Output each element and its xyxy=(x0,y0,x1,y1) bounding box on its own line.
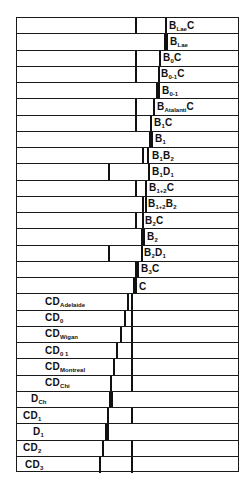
breakpoint-line xyxy=(113,359,115,374)
row-label: CDMontreal xyxy=(45,361,85,373)
diagram-row: B0-1C xyxy=(17,67,238,83)
breakpoint-line xyxy=(124,311,126,326)
breakpoint-line xyxy=(150,116,152,131)
breakpoint-line xyxy=(131,311,133,326)
centromere-marker xyxy=(156,83,160,98)
breakpoint-line xyxy=(99,457,101,473)
row-label: DCh xyxy=(31,393,47,405)
row-label: BLaeC xyxy=(169,20,194,32)
row-label: CD1 xyxy=(23,410,41,422)
breakpoint-line xyxy=(131,343,133,358)
row-label: CD0 1 xyxy=(45,345,68,357)
breakpoint-line xyxy=(147,148,149,163)
breakpoint-line xyxy=(137,262,139,277)
diagram-row: CD1 xyxy=(17,408,238,424)
row-label: CD2 xyxy=(23,442,41,454)
breakpoint-line xyxy=(120,327,122,342)
row-label: B1+2C xyxy=(149,182,174,194)
breakpoint-line xyxy=(107,408,109,423)
row-label: B0-1C xyxy=(161,68,185,80)
diagram-row: CD0 1 xyxy=(17,343,238,359)
chromosome-diagram-frame: BLaeCBLaeB0CB0-1CB0-1BAtalantiCB1CB1B1B2… xyxy=(16,17,239,472)
breakpoint-line xyxy=(131,441,133,456)
diagram-row: BLaeC xyxy=(17,18,238,34)
row-label: CDAdelaide xyxy=(45,296,85,308)
centromere-marker xyxy=(164,34,168,49)
breakpoint-line xyxy=(108,164,110,179)
row-label: CD3 xyxy=(25,459,43,471)
diagram-row: CD3 xyxy=(17,457,238,473)
row-label: B2C xyxy=(145,215,163,227)
breakpoint-line xyxy=(153,99,155,114)
row-label: B1 xyxy=(155,133,166,145)
diagram-row: D1 xyxy=(17,424,238,440)
diagram-row: CDMontreal xyxy=(17,359,238,375)
row-label: CDChi xyxy=(45,377,70,389)
breakpoint-line xyxy=(142,197,144,212)
breakpoint-line xyxy=(131,294,133,309)
breakpoint-line xyxy=(131,408,133,423)
breakpoint-line xyxy=(142,148,144,163)
breakpoint-line xyxy=(135,213,137,228)
row-label: B1B2 xyxy=(152,150,174,162)
diagram-row: C xyxy=(17,278,238,294)
diagram-row: BAtalantiC xyxy=(17,99,238,115)
breakpoint-line xyxy=(110,376,112,391)
row-label: BLae xyxy=(170,36,188,48)
diagram-row: B1B2 xyxy=(17,148,238,164)
breakpoint-line xyxy=(135,18,137,33)
breakpoint-line xyxy=(142,213,144,228)
breakpoint-line xyxy=(131,457,133,473)
breakpoint-line xyxy=(135,67,137,82)
breakpoint-line xyxy=(135,181,137,196)
row-label: B1+2B2 xyxy=(148,198,177,210)
diagram-row: BLae xyxy=(17,34,238,50)
row-label: B0C xyxy=(163,52,181,64)
row-label: B1C xyxy=(154,117,172,129)
breakpoint-line xyxy=(135,51,137,66)
breakpoint-line xyxy=(131,376,133,391)
breakpoint-line xyxy=(158,67,160,82)
diagram-row: DCh xyxy=(17,392,238,408)
breakpoint-line xyxy=(145,181,147,196)
breakpoint-line xyxy=(135,99,137,114)
centromere-marker xyxy=(109,392,113,407)
row-label: C xyxy=(139,280,147,291)
diagram-row: B2 xyxy=(17,229,238,245)
row-label: D1 xyxy=(33,426,44,438)
diagram-row: CDAdelaide xyxy=(17,294,238,310)
diagram-row: CDWigan xyxy=(17,327,238,343)
row-label: B2D1 xyxy=(144,247,166,259)
diagram-row: B1D1 xyxy=(17,164,238,180)
row-label: B2 xyxy=(147,231,158,243)
diagram-row: CD2 xyxy=(17,441,238,457)
breakpoint-line xyxy=(116,343,118,358)
centromere-marker xyxy=(141,229,145,244)
breakpoint-line xyxy=(165,18,167,33)
diagram-row: B0C xyxy=(17,51,238,67)
breakpoint-line xyxy=(131,327,133,342)
row-label: BAtalantiC xyxy=(157,101,194,113)
row-label: CDWigan xyxy=(45,328,78,340)
row-label: CD0 xyxy=(45,312,63,324)
diagram-row: B1+2B2 xyxy=(17,197,238,213)
diagram-row: B3C xyxy=(17,262,238,278)
row-label: B1D1 xyxy=(152,166,174,178)
row-label: B0-1 xyxy=(162,85,178,97)
diagram-row: B1+2C xyxy=(17,181,238,197)
diagram-row: CD0 xyxy=(17,311,238,327)
breakpoint-line xyxy=(141,246,143,261)
breakpoint-line xyxy=(135,116,137,131)
breakpoint-line xyxy=(148,164,150,179)
breakpoint-line xyxy=(102,441,104,456)
breakpoint-line xyxy=(145,197,147,212)
breakpoint-line xyxy=(127,294,129,309)
centromere-marker xyxy=(105,424,109,439)
centromere-marker xyxy=(149,132,153,147)
diagram-row: CDChi xyxy=(17,376,238,392)
breakpoint-line xyxy=(108,246,110,261)
breakpoint-line xyxy=(131,359,133,374)
diagram-row: B0-1 xyxy=(17,83,238,99)
diagram-row: B2D1 xyxy=(17,246,238,262)
breakpoint-line xyxy=(159,51,161,66)
